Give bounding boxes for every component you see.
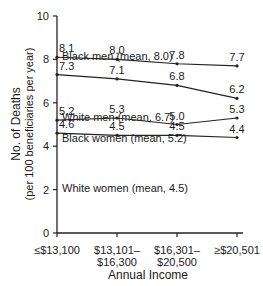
series-white-men: 7.37.16.86.2White men (mean, 6.7) — [55, 60, 244, 123]
data-point — [235, 116, 238, 119]
data-point — [175, 62, 178, 65]
data-point — [175, 84, 178, 87]
x-tick-label: $16,300 — [97, 256, 137, 268]
series-white-women: 4.64.54.54.4White women (mean, 4.5) — [55, 118, 244, 194]
series-black-men: 8.18.07.87.7Black men (mean, 8.0) — [55, 42, 244, 67]
x-axis: ≤$13,100$13,101–$16,300$16,301–$20,500≥$… — [34, 233, 260, 268]
x-tick-label: ≤$13,100 — [34, 244, 80, 256]
y-tick-label: 2 — [43, 184, 49, 196]
data-point — [55, 132, 58, 135]
data-point — [115, 134, 118, 137]
data-label: 4.6 — [59, 118, 74, 130]
x-tick-label: $16,301– — [154, 244, 201, 256]
series-label: White women (mean, 4.5) — [62, 182, 188, 194]
data-point — [115, 77, 118, 80]
y-axis-subtitle: (per 100 beneficiaries per year) — [23, 48, 35, 201]
data-point — [235, 97, 238, 100]
data-label: 7.7 — [229, 51, 244, 63]
data-point — [235, 64, 238, 67]
x-axis-title: Annual Income — [108, 268, 188, 282]
series-label: Black men (mean, 8.0) — [62, 50, 173, 62]
data-point — [55, 73, 58, 76]
data-point — [55, 56, 58, 59]
series-black-women: 5.25.35.05.3Black women (mean, 5.2) — [55, 103, 244, 144]
data-label: 4.4 — [229, 123, 244, 135]
y-tick-label: 8 — [43, 53, 49, 65]
data-label: 4.5 — [169, 120, 184, 132]
data-point — [115, 116, 118, 119]
series-layer: 8.18.07.87.7Black men (mean, 8.0)7.37.16… — [55, 42, 244, 194]
x-tick-label: $20,500 — [157, 256, 197, 268]
y-tick-label: 10 — [37, 10, 49, 22]
x-tick-label: $13,101– — [94, 244, 141, 256]
y-tick-label: 4 — [43, 140, 49, 152]
data-point — [235, 136, 238, 139]
data-label: 4.5 — [109, 120, 124, 132]
data-label: 6.2 — [229, 83, 244, 95]
data-label: 7.1 — [109, 64, 124, 76]
data-label: 5.3 — [109, 103, 124, 115]
y-axis: 0246810 — [37, 10, 57, 239]
data-label: 6.8 — [169, 70, 184, 82]
data-label: 5.3 — [229, 103, 244, 115]
y-axis-title: No. of Deaths — [9, 87, 23, 160]
line-chart: 0246810 ≤$13,100$13,101–$16,300$16,301–$… — [0, 0, 263, 286]
data-label: 7.3 — [59, 60, 74, 72]
data-point — [175, 134, 178, 137]
y-tick-label: 0 — [43, 227, 49, 239]
data-label: 5.2 — [59, 105, 74, 117]
x-tick-label: ≥$20,501 — [214, 244, 260, 256]
y-tick-label: 6 — [43, 97, 49, 109]
